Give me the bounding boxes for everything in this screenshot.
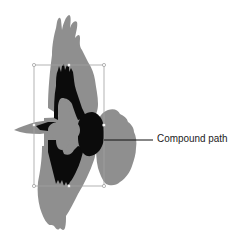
handle-middle-right [102,123,105,126]
callout-label: Compound path [157,132,227,144]
handle-middle-left [32,123,35,126]
bird-illustration [0,0,238,243]
compound-path-figure: Compound path [0,0,238,243]
handle-bottom-middle [67,184,70,187]
handle-bottom-left [32,184,35,187]
handle-top-middle [67,63,70,66]
handle-top-left [32,63,35,66]
handle-top-right [102,63,105,66]
handle-bottom-right [102,184,105,187]
